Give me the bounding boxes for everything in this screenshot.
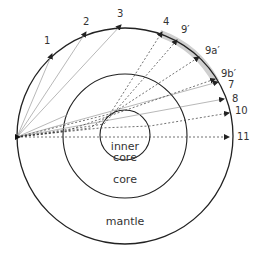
inner-core-label: inner core	[105, 141, 145, 163]
ray-label-1: 1	[44, 36, 50, 46]
ray-label-10: 10	[235, 106, 248, 116]
dashed-rays	[17, 32, 229, 137]
ray-label-9p: 9′	[181, 25, 190, 35]
ray-7	[17, 82, 218, 137]
core-label: core	[100, 174, 150, 185]
shadow-zone-band	[159, 30, 219, 84]
ray-label-4: 4	[163, 17, 169, 27]
ray-label-3: 3	[117, 9, 123, 19]
inner-core-label-line2: core	[105, 152, 145, 163]
ray-label-11: 11	[237, 132, 250, 142]
ray-label-2: 2	[83, 17, 89, 27]
ray-label-9bp: 9b′	[221, 69, 236, 79]
earth-ray-diagram: 1 2 3 4 9′ 9a′ 9b′ 7 8 10 11 inner core …	[0, 0, 261, 262]
ray-label-7: 7	[228, 80, 234, 90]
ray-label-8: 8	[232, 94, 238, 104]
mantle-label: mantle	[95, 216, 155, 227]
ray-10	[17, 113, 229, 137]
ray-1	[17, 54, 52, 137]
ray-label-9ap: 9a′	[205, 46, 220, 56]
ray-9bp	[17, 79, 215, 137]
